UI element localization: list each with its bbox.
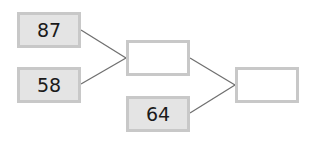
input-value-a: 87	[37, 19, 61, 41]
result-box-sum2[interactable]	[235, 67, 299, 103]
input-value-c: 64	[146, 103, 170, 125]
connector-a-to-sum1	[81, 30, 126, 58]
input-box-b: 58	[17, 67, 81, 103]
input-box-c: 64	[126, 96, 190, 132]
connector-b-to-sum1	[81, 58, 126, 84]
result-box-sum1[interactable]	[126, 40, 190, 76]
connector-sum1-to-sum2	[190, 58, 235, 85]
input-box-a: 87	[17, 12, 81, 48]
connector-c-to-sum2	[190, 85, 235, 113]
input-value-b: 58	[37, 74, 61, 96]
